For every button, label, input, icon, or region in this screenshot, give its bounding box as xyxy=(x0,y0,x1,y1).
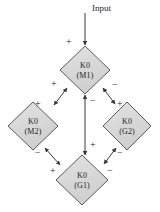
node-m2[interactable] xyxy=(8,102,58,150)
edge-m1-g2 xyxy=(103,88,115,104)
edge-m2-g1 xyxy=(45,148,60,165)
node-m1[interactable] xyxy=(60,46,110,94)
diagram-canvas: Input + K0 (M1) K0 (M2) K0 (G2) K0 (G1) … xyxy=(0,0,160,212)
node-g1[interactable] xyxy=(56,155,108,205)
diagram-graphics xyxy=(0,0,160,212)
edge-g2-g1 xyxy=(104,148,116,164)
node-g2[interactable] xyxy=(103,102,151,150)
edge-m1-m2 xyxy=(54,88,67,105)
